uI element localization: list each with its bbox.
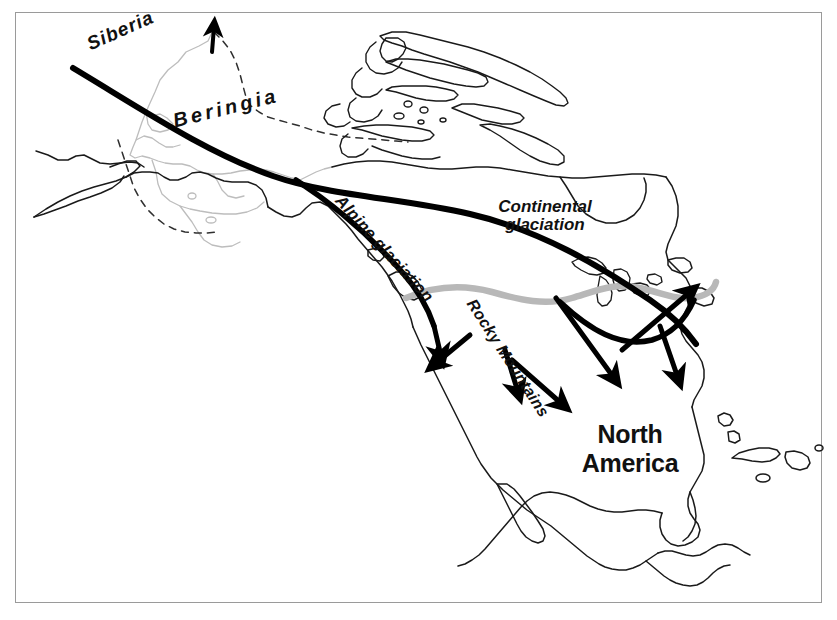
label-north-america-line1: North (570, 420, 690, 449)
island-band-3 (352, 125, 434, 141)
arctic-mainland-coast (332, 161, 666, 178)
modern-coastline-group (130, 30, 332, 247)
migration-arrow-plains (556, 298, 614, 378)
island-band-2 (352, 68, 382, 97)
greenland-outline (380, 32, 568, 106)
kamchatka-north-coast (36, 151, 144, 167)
gulf-and-mexico-coast (458, 492, 662, 566)
islet-5 (440, 118, 446, 122)
island-small-3 (324, 104, 350, 127)
island-small-4 (340, 134, 368, 157)
shelf-south-edge (118, 140, 218, 233)
arctic-archipelago-group (324, 32, 568, 165)
map-figure: Siberia Beringia Alpine glaciation Conti… (0, 0, 837, 620)
label-north-america: North America (570, 420, 690, 477)
baffin-island (480, 124, 564, 165)
island-small-1 (188, 193, 196, 199)
axel-heiberg (366, 42, 402, 74)
islet-2 (420, 107, 428, 113)
label-continental-glaciation-line2: glaciation (470, 216, 620, 234)
victoria-island (386, 86, 458, 101)
florida-peninsula (683, 492, 696, 541)
islet-4 (418, 120, 424, 124)
label-continental-glaciation: Continental glaciation (470, 198, 620, 235)
migration-arrow-alpine-south (434, 326, 441, 356)
puerto-rico (815, 445, 823, 451)
siberia-inlet (136, 136, 180, 147)
jamaica (756, 474, 770, 482)
aleutian-arc-upper (34, 161, 140, 217)
labrador-east-coast (666, 177, 704, 407)
map-drawing (0, 0, 837, 620)
southampton-band (372, 146, 440, 159)
island-small-2 (206, 217, 216, 223)
seward-peninsula-coast (213, 174, 244, 198)
hispaniola (785, 451, 810, 470)
bahamas-2 (728, 431, 740, 443)
islet-3 (394, 113, 404, 119)
cuba (732, 448, 780, 462)
baja-california (497, 484, 545, 543)
islet-1 (404, 101, 412, 107)
ice-margin-gray-line (406, 282, 716, 302)
newfoundland-north (668, 258, 692, 273)
label-continental-glaciation-line1: Continental (470, 198, 620, 216)
lake-ontario (647, 274, 662, 285)
label-north-america-line2: America (570, 449, 690, 478)
central-america-south-coast (646, 561, 730, 586)
alaska-south-coast (126, 172, 268, 207)
central-america-coast (658, 544, 750, 556)
baffin-north (452, 104, 524, 124)
banks-island (348, 98, 382, 122)
arctic-coast-grey (300, 167, 332, 180)
bahamas-1 (718, 413, 733, 426)
migration-arrow-north-siberia (212, 27, 214, 52)
